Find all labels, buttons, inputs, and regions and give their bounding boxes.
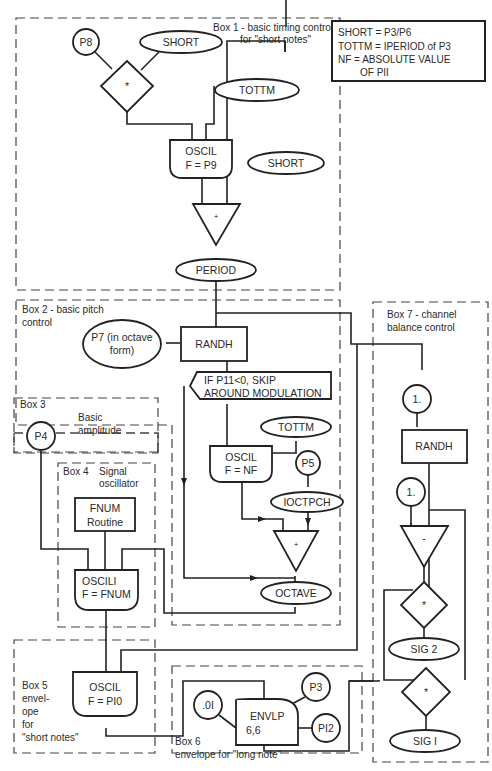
svg-text:OCTAVE: OCTAVE — [275, 587, 317, 599]
svg-text:*: * — [422, 599, 426, 611]
svg-text:IOCTPCH: IOCTPCH — [283, 496, 330, 508]
svg-text:.0I: .0I — [202, 699, 214, 711]
legend-line-2: TOTTM = IPERIOD of P3 — [338, 41, 451, 52]
legend-line-3: NF = ABSOLUTE VALUE — [338, 54, 451, 65]
svg-text:SHORT: SHORT — [163, 36, 200, 48]
box2-title: Box 2 - basic pitch — [22, 304, 104, 315]
box7-subtitle: balance control — [387, 322, 455, 333]
box5-line-2: envel- — [22, 693, 49, 704]
box5-line-4: for — [22, 719, 34, 730]
svg-text:form): form) — [110, 344, 135, 356]
svg-text:F = P9: F = P9 — [185, 159, 216, 171]
svg-text:OSCIL: OSCIL — [225, 451, 257, 463]
svg-text:RANDH: RANDH — [415, 440, 452, 452]
svg-text:Routine: Routine — [87, 516, 123, 528]
node-add-2 — [274, 531, 318, 571]
svg-text:FNUM: FNUM — [90, 502, 120, 514]
box1-title: Box 1 - basic timing control — [213, 22, 333, 33]
svg-text:RANDH: RANDH — [195, 338, 232, 350]
svg-text:SIG 2: SIG 2 — [411, 643, 438, 655]
box5-line-3: ope — [22, 706, 39, 717]
svg-text:OSCILI: OSCILI — [82, 575, 116, 587]
box3-desc-2: amplitude — [78, 425, 122, 436]
svg-text:ENVLP: ENVLP — [250, 710, 284, 722]
svg-text:P7 (in octave: P7 (in octave — [91, 331, 152, 343]
svg-text:IF P11<0, SKIP: IF P11<0, SKIP — [204, 374, 276, 386]
svg-text:PERIOD: PERIOD — [196, 264, 237, 276]
box4-desc-2: oscillator — [99, 478, 139, 489]
flowchart-diagram: SHORT = P3/P6 TOTTM = IPERIOD of P3 NF =… — [0, 0, 492, 771]
svg-text:P5: P5 — [302, 457, 315, 469]
box6-title: Box 6 — [175, 736, 201, 747]
svg-text:AROUND MODULATION: AROUND MODULATION — [204, 387, 322, 399]
svg-text:-: - — [422, 532, 426, 544]
node-oscil-p10 — [73, 672, 137, 716]
box7-title: Box 7 - channel — [387, 309, 457, 320]
svg-text:*: * — [424, 686, 428, 698]
node-envlp — [236, 699, 298, 745]
box4-title: Box 4 — [63, 466, 89, 477]
svg-text:F = PI0: F = PI0 — [88, 695, 122, 707]
svg-text:PI2: PI2 — [318, 722, 334, 734]
svg-text:1.: 1. — [407, 486, 416, 498]
svg-text:*: * — [125, 80, 129, 92]
svg-text:P3: P3 — [310, 681, 323, 693]
svg-text:TOTTM: TOTTM — [278, 421, 314, 433]
svg-text:F = NF: F = NF — [225, 464, 257, 476]
box4-desc-1: Signal — [99, 466, 127, 477]
box1-subtitle: for "short notes" — [240, 34, 311, 45]
svg-text:TOTTM: TOTTM — [239, 84, 275, 96]
svg-text:1.: 1. — [413, 393, 422, 405]
legend-line-1: SHORT = P3/P6 — [338, 27, 412, 38]
box2-subtitle: control — [22, 317, 52, 328]
svg-text:SHORT: SHORT — [268, 157, 305, 169]
svg-text:OSCIL: OSCIL — [185, 145, 217, 157]
node-add-1 — [193, 204, 240, 245]
svg-text:6,6: 6,6 — [246, 724, 261, 736]
svg-text:F = FNUM: F = FNUM — [82, 588, 131, 600]
svg-text:P4: P4 — [35, 430, 48, 442]
box5-line-5: "short notes" — [22, 732, 79, 743]
box3-desc-1: Basic — [78, 412, 102, 423]
box5-line-1: Box 5 — [22, 680, 48, 691]
svg-text:OSCIL: OSCIL — [89, 681, 121, 693]
box3-title: Box 3 — [20, 399, 46, 410]
svg-text:+: + — [294, 540, 299, 549]
svg-text:P8: P8 — [80, 36, 93, 48]
svg-text:SIG I: SIG I — [413, 735, 437, 747]
svg-text:+: + — [214, 212, 219, 221]
legend-line-4: OF PII — [360, 67, 389, 78]
